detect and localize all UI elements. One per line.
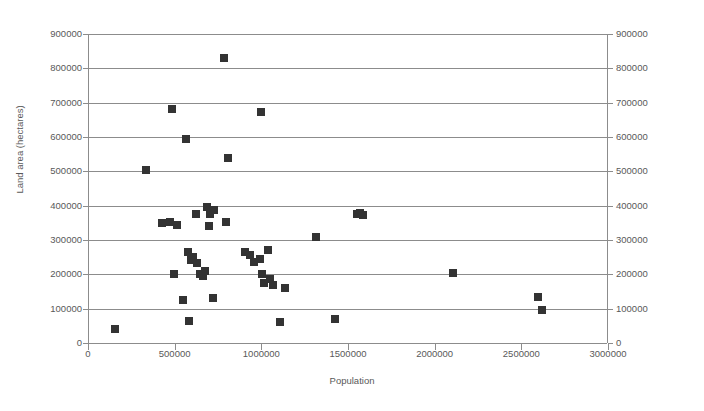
data-point-marker	[276, 318, 284, 326]
data-point-marker	[209, 294, 217, 302]
y-axis-tick-label-right: 700000	[616, 98, 648, 108]
y-axis-tick-label-left: 900000	[50, 29, 82, 39]
data-point-marker	[312, 233, 320, 241]
data-point-marker	[269, 281, 277, 289]
gridline-y	[89, 34, 607, 35]
y-axis-tick-mark-right	[608, 68, 613, 69]
data-point-marker	[210, 206, 218, 214]
gridline-y	[89, 274, 607, 275]
y-axis-tick-mark-left	[83, 309, 88, 310]
y-axis-tick-mark-right	[608, 103, 613, 104]
y-axis-tick-mark-left	[83, 68, 88, 69]
y-axis-tick-label-left: 600000	[50, 132, 82, 142]
y-axis-tick-label-right: 100000	[616, 304, 648, 314]
data-point-marker	[256, 255, 264, 263]
gridline-y	[89, 240, 607, 241]
y-axis-tick-label-right: 800000	[616, 63, 648, 73]
x-axis-tick-label: 0	[85, 349, 90, 359]
x-axis-tick-label: 2000000	[416, 349, 453, 359]
data-point-marker	[142, 166, 150, 174]
y-axis-tick-mark-right	[608, 206, 613, 207]
gridline-y	[89, 206, 607, 207]
data-point-marker	[185, 317, 193, 325]
y-axis-tick-label-left: 300000	[50, 235, 82, 245]
scatter-chart: Land area (hectares) Population 00100000…	[0, 0, 704, 411]
y-axis-tick-mark-right	[608, 309, 613, 310]
gridline-y	[89, 68, 607, 69]
x-axis-label: Population	[0, 375, 704, 386]
y-axis-tick-mark-left	[83, 206, 88, 207]
y-axis-tick-label-left: 500000	[50, 166, 82, 176]
y-axis-tick-mark-left	[83, 240, 88, 241]
data-point-marker	[179, 296, 187, 304]
y-axis-tick-mark-left	[83, 137, 88, 138]
data-point-marker	[449, 269, 457, 277]
y-axis-tick-mark-right	[608, 240, 613, 241]
y-axis-tick-mark-left	[83, 274, 88, 275]
data-point-marker	[173, 221, 181, 229]
y-axis-tick-label-left: 800000	[50, 63, 82, 73]
x-axis-tick-label: 3000000	[590, 349, 627, 359]
data-point-marker	[534, 293, 542, 301]
y-axis-tick-label-left: 400000	[50, 201, 82, 211]
y-axis-tick-mark-right	[608, 34, 613, 35]
data-point-marker	[158, 219, 166, 227]
gridline-y	[89, 103, 607, 104]
y-axis-label: Land area (hectares)	[14, 90, 25, 210]
y-axis-tick-mark-right	[608, 171, 613, 172]
data-point-marker	[168, 105, 176, 113]
x-axis-tick-label: 2500000	[503, 349, 540, 359]
y-axis-tick-label-left: 100000	[50, 304, 82, 314]
data-point-marker	[538, 306, 546, 314]
y-axis-tick-label-right: 500000	[616, 166, 648, 176]
data-point-marker	[193, 259, 201, 267]
y-axis-tick-mark-right	[608, 137, 613, 138]
gridline-y	[89, 137, 607, 138]
data-point-marker	[192, 210, 200, 218]
data-point-marker	[111, 325, 119, 333]
y-axis-tick-label-left: 200000	[50, 269, 82, 279]
y-axis-tick-mark-right	[608, 274, 613, 275]
y-axis-tick-label-left: 700000	[50, 98, 82, 108]
gridline-y	[89, 309, 607, 310]
y-axis-tick-label-left: 0	[77, 338, 82, 348]
y-axis-tick-mark-left	[83, 103, 88, 104]
data-point-marker	[205, 222, 213, 230]
data-point-marker	[220, 54, 228, 62]
y-axis-tick-mark-left	[83, 171, 88, 172]
gridline-y	[89, 171, 607, 172]
data-point-marker	[258, 270, 266, 278]
x-axis-tick-label: 1000000	[243, 349, 280, 359]
y-axis-tick-label-right: 600000	[616, 132, 648, 142]
data-point-marker	[222, 218, 230, 226]
data-point-marker	[257, 108, 265, 116]
y-axis-tick-label-right: 400000	[616, 201, 648, 211]
y-axis-tick-label-right: 300000	[616, 235, 648, 245]
y-axis-tick-label-right: 900000	[616, 29, 648, 39]
data-point-marker	[359, 211, 367, 219]
y-axis-tick-mark-left	[83, 34, 88, 35]
data-point-marker	[224, 154, 232, 162]
x-axis-tick-label: 1500000	[330, 349, 367, 359]
plot-area	[88, 34, 608, 343]
y-axis-tick-label-right: 0	[616, 338, 621, 348]
data-point-marker	[201, 267, 209, 275]
data-point-marker	[281, 284, 289, 292]
data-point-marker	[182, 135, 190, 143]
data-point-marker	[264, 246, 272, 254]
data-point-marker	[170, 270, 178, 278]
x-axis-tick-label: 500000	[159, 349, 191, 359]
y-axis-tick-label-right: 200000	[616, 269, 648, 279]
data-point-marker	[331, 315, 339, 323]
